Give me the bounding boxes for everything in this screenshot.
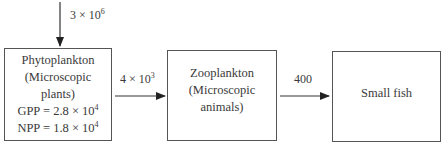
gpp-text: GPP = 2.8 × 10 (17, 104, 94, 118)
gpp-value: GPP = 2.8 × 104 (17, 103, 98, 120)
npp-exp: 4 (95, 120, 99, 129)
node-line: (Microscopic (189, 82, 256, 99)
edge-label-zoo-fish: 400 (294, 72, 312, 87)
edge-label-phyto-zoo: 4 × 103 (120, 72, 155, 87)
input-label-exp: 6 (101, 7, 105, 16)
node-line: Zooplankton (190, 65, 254, 82)
input-label-base: 3 × 10 (70, 8, 101, 22)
node-zooplankton: Zooplankton (Microscopic animals) (167, 50, 277, 141)
edge-label-base: 4 × 10 (120, 72, 151, 86)
gpp-exp: 4 (95, 103, 99, 112)
node-phytoplankton: Phytoplankton (Microscopic plants) GPP =… (4, 48, 112, 141)
node-line: (Microscopic (25, 69, 92, 86)
node-small-fish: Small fish (332, 51, 441, 142)
input-energy-label: 3 × 106 (70, 8, 105, 23)
npp-text: NPP = 1.8 × 10 (17, 121, 94, 135)
edge-label-exp: 3 (151, 71, 155, 80)
node-line: Phytoplankton (22, 52, 95, 69)
node-line: Small fish (361, 85, 412, 102)
node-line: plants) (41, 86, 75, 103)
npp-value: NPP = 1.8 × 104 (17, 120, 98, 137)
node-line: animals) (200, 99, 243, 116)
